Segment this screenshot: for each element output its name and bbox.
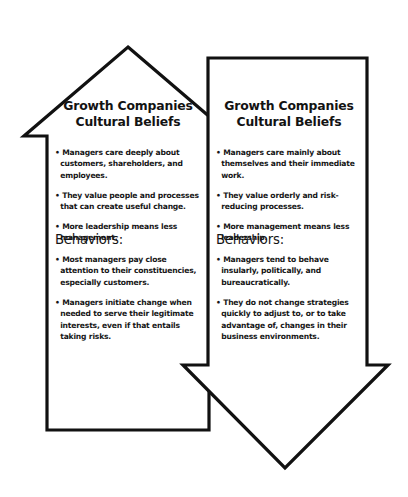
- list-item: • Managers tend to behave insularly, pol…: [216, 254, 366, 288]
- right-behaviors-heading: Behaviors:: [216, 232, 366, 247]
- right-column-header: Growth Companies Cultural Beliefs: [214, 98, 364, 129]
- list-item: • They do not change strategies quickly …: [216, 297, 366, 343]
- right-beliefs-list: • Managers care mainly about themselves …: [216, 147, 366, 244]
- list-item: • Managers care deeply about customers, …: [55, 147, 203, 181]
- list-item: • They value orderly and risk-reducing p…: [216, 190, 366, 213]
- left-beliefs-list: • Managers care deeply about customers, …: [55, 147, 203, 244]
- right-heading-line-1: Growth Companies: [214, 98, 364, 114]
- cultural-beliefs-diagram: Growth Companies Cultural Beliefs • Mana…: [0, 0, 408, 497]
- right-behaviors-list: • Managers tend to behave insularly, pol…: [216, 254, 366, 342]
- left-heading-line-1: Growth Companies: [52, 98, 204, 114]
- left-column-header: Growth Companies Cultural Beliefs: [52, 98, 204, 129]
- list-item: • Managers initiate change when needed t…: [55, 297, 203, 343]
- left-behaviors-list: • Most managers pay close attention to t…: [55, 254, 203, 342]
- left-heading-line-2: Cultural Beliefs: [52, 114, 204, 130]
- left-behaviors-heading: Behaviors:: [55, 232, 203, 247]
- right-heading-line-2: Cultural Beliefs: [214, 114, 364, 130]
- list-item: • Most managers pay close attention to t…: [55, 254, 203, 288]
- list-item: • Managers care mainly about themselves …: [216, 147, 366, 181]
- right-behaviors-section: Behaviors: • Managers tend to behave ins…: [216, 232, 366, 342]
- left-behaviors-section: Behaviors: • Most managers pay close att…: [55, 232, 203, 342]
- list-item: • They value people and processes that c…: [55, 190, 203, 213]
